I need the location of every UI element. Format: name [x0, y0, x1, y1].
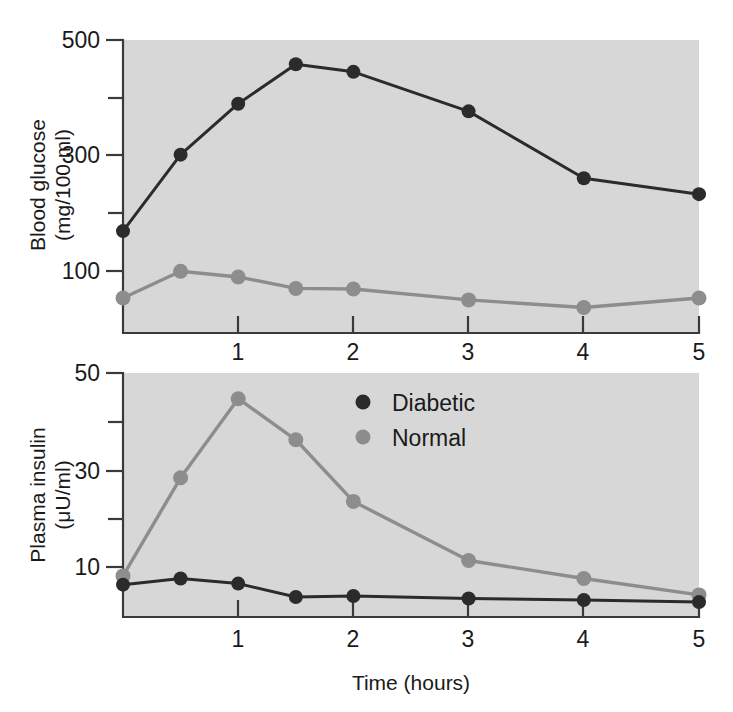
- data-point: [289, 590, 303, 604]
- top-panel-xtick-label-5: 5: [693, 339, 706, 365]
- data-point: [231, 97, 245, 111]
- dual-panel-line-chart: 500 300 100 1 2 3 4 5 Blood glucose (mg/…: [0, 0, 733, 712]
- figure-container: 500 300 100 1 2 3 4 5 Blood glucose (mg/…: [0, 0, 733, 712]
- data-point: [288, 281, 303, 296]
- top-panel: 500 300 100 1 2 3 4 5 Blood glucose (mg/…: [26, 27, 707, 365]
- top-panel-xtick-label-2: 2: [347, 339, 360, 365]
- bottom-panel-xtick-label-3: 3: [462, 626, 475, 652]
- data-point: [174, 571, 188, 585]
- bottom-panel: 50 30 10 1 2 3 4 5 Plasma insulin (μU/ml…: [26, 360, 707, 652]
- bottom-panel-y-axis-title-line1: Plasma insulin: [26, 427, 49, 562]
- data-point: [692, 595, 706, 609]
- data-point: [174, 148, 188, 162]
- data-point: [576, 571, 591, 586]
- top-panel-xtick-label-3: 3: [462, 339, 475, 365]
- top-panel-ytick-label-500: 500: [62, 27, 100, 53]
- data-point: [692, 290, 707, 305]
- data-point: [692, 187, 706, 201]
- data-point: [346, 282, 361, 297]
- data-point: [173, 470, 188, 485]
- bottom-panel-y-axis-title-line2: (μU/ml): [51, 460, 74, 529]
- data-point: [577, 593, 591, 607]
- data-point: [461, 292, 476, 307]
- data-point: [346, 65, 360, 79]
- legend-marker-normal: [356, 430, 371, 445]
- data-point: [116, 224, 130, 238]
- top-panel-xtick-label-1: 1: [232, 339, 245, 365]
- top-panel-y-axis-title: Blood glucose (mg/100 ml): [26, 119, 74, 251]
- bottom-panel-ytick-label-10: 10: [74, 554, 100, 580]
- bottom-panel-ytick-label-50: 50: [74, 360, 100, 386]
- legend-marker-diabetic: [356, 395, 371, 410]
- bottom-panel-xtick-label-2: 2: [347, 626, 360, 652]
- data-point: [116, 290, 131, 305]
- legend-label-diabetic: Diabetic: [392, 390, 475, 416]
- data-point: [231, 269, 246, 284]
- top-panel-y-axis-title-line1: Blood glucose: [26, 119, 49, 251]
- legend-label-normal: Normal: [392, 425, 466, 451]
- bottom-panel-ytick-label-30: 30: [74, 458, 100, 484]
- top-panel-xtick-label-4: 4: [577, 339, 590, 365]
- data-point: [288, 432, 303, 447]
- data-point: [346, 589, 360, 603]
- data-point: [462, 592, 476, 606]
- bottom-panel-xtick-label-4: 4: [577, 626, 590, 652]
- data-point: [576, 300, 591, 315]
- bottom-panel-y-axis-title: Plasma insulin (μU/ml): [26, 427, 74, 562]
- top-panel-background: [123, 40, 699, 333]
- data-point: [577, 171, 591, 185]
- data-point: [231, 391, 246, 406]
- data-point: [289, 57, 303, 71]
- top-panel-y-axis-title-line2: (mg/100 ml): [51, 129, 74, 241]
- data-point: [346, 494, 361, 509]
- bottom-panel-xtick-label-5: 5: [693, 626, 706, 652]
- top-panel-ytick-label-100: 100: [62, 258, 100, 284]
- data-point: [462, 104, 476, 118]
- data-point: [173, 264, 188, 279]
- x-axis-title: Time (hours): [352, 671, 470, 694]
- data-point: [461, 553, 476, 568]
- data-point: [231, 577, 245, 591]
- data-point: [116, 578, 130, 592]
- bottom-panel-xtick-label-1: 1: [232, 626, 245, 652]
